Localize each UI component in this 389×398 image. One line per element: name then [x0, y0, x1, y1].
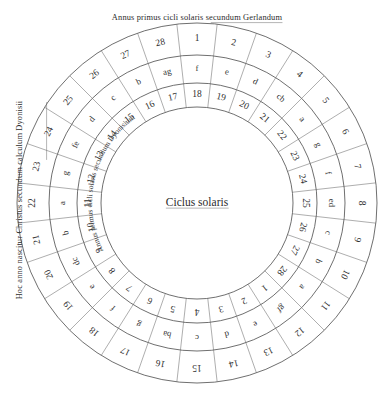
wheel-svg: 1234567891011121314151617181920212223242… [0, 0, 389, 398]
middle-ring-cell: b [313, 257, 324, 266]
inner-ring-cell: 7 [124, 283, 134, 294]
outer-ring-cell: 8 [357, 201, 367, 206]
inner-ring-cell: 27 [288, 244, 301, 257]
ring-divider [208, 298, 217, 381]
outer-ring-cell: 7 [352, 163, 363, 170]
inner-ring-cell: 20 [238, 98, 251, 111]
outer-ring-cell: 17 [119, 345, 132, 358]
middle-ring-cell: a [297, 283, 307, 292]
outer-ring-cell: 19 [61, 299, 75, 313]
caption-top-group: Annus primus cicli solaris secundum Gerl… [112, 13, 283, 23]
inner-ring-cell: 2 [240, 295, 249, 306]
inner-ring-cell: 25 [301, 198, 311, 208]
middle-ring-cell: g [60, 169, 71, 176]
outer-ring-cell: 14 [228, 358, 240, 370]
inner-ring-cell: 3 [218, 304, 225, 315]
middle-ring-cell: gf [275, 302, 287, 314]
middle-ring-cell: a [297, 114, 307, 123]
middle-ring-cell: ag [162, 65, 173, 77]
outer-ring-cell: 23 [30, 160, 42, 172]
outer-ring-cell: 25 [61, 93, 75, 107]
middle-ring-cell: d [251, 76, 260, 87]
middle-ring-cell: e [224, 66, 230, 77]
ring-divider [70, 271, 129, 330]
middle-ring-cell: f [196, 63, 199, 73]
caption-left: Hoc anno nascitur Christus secundum calc… [15, 100, 24, 299]
outer-ring-cell: 21 [30, 234, 42, 246]
ring-divider [177, 24, 186, 107]
inner-ring-cell: 16 [143, 98, 156, 111]
inner-ring-cell: 17 [167, 91, 179, 103]
outer-ring-cell: 16 [154, 358, 166, 370]
outer-ring-cell: 26 [87, 67, 101, 81]
middle-ring-cell: e [86, 282, 96, 291]
outer-ring-cell: 1 [195, 33, 200, 43]
inner-ring-cell: 26 [297, 221, 309, 233]
curved-label-path [92, 102, 170, 281]
inner-ring-cell: 5 [169, 304, 176, 315]
middle-ring-cell: dc [69, 256, 82, 268]
outer-ring-cell: 15 [192, 363, 202, 373]
inner-ring-cell: 24 [297, 173, 309, 185]
inner-ring-cell: 28 [275, 264, 289, 278]
middle-ring-cell: ed [327, 199, 337, 208]
middle-ring-cell: a [57, 201, 67, 205]
outer-ring-cell: 10 [339, 268, 352, 281]
ring-divider [265, 76, 324, 135]
middle-ring-cell: b [134, 76, 143, 87]
inner-ring-cell: 21 [258, 111, 272, 125]
ring-divider [292, 183, 375, 192]
inner-ring-cell: 22 [275, 128, 289, 142]
middle-ring-cell: c [195, 333, 199, 343]
outer-ring-cell: 6 [340, 127, 351, 136]
middle-ring-cell: fe [69, 139, 81, 150]
middle-ring-cell: cb [275, 91, 288, 104]
middle-ring-cell: g [313, 140, 324, 149]
inner-ring-cell: 1 [260, 283, 270, 294]
middle-ring-cell: f [323, 170, 333, 175]
outer-ring-cell: 11 [319, 299, 333, 313]
outer-ring-cell: 12 [293, 325, 307, 339]
outer-ring-cell: 28 [155, 36, 167, 48]
inner-ring-cell: 8 [106, 266, 117, 276]
outer-ring-cell: 5 [320, 95, 331, 105]
middle-ring-cell: d [223, 329, 230, 340]
inner-ring-cell: 18 [192, 89, 202, 99]
outer-ring-cell: 22 [27, 198, 37, 208]
outer-ring-cell: 27 [119, 48, 132, 61]
middle-ring-cell: f [109, 304, 118, 314]
inner-ring-cell: 23 [288, 149, 301, 162]
middle-ring-cell: b [60, 229, 71, 236]
middle-ring-cell: d [86, 114, 97, 124]
inner-ring-cell: 6 [145, 295, 154, 306]
outer-ring-cell: 13 [262, 345, 275, 358]
outer-ring-cell: 4 [295, 69, 305, 80]
curved-label-inner: Annus primus cicli solaris secundum Dyon… [85, 112, 136, 253]
outer-ring-cell: 9 [352, 236, 363, 243]
solar-cycle-diagram: 1234567891011121314151617181920212223242… [0, 0, 389, 398]
outer-ring-cell: 3 [264, 49, 273, 60]
outer-ring-cell: 20 [42, 268, 55, 281]
inner-ring-cell: 19 [215, 91, 227, 103]
outer-ring-cell: 2 [230, 37, 237, 48]
center-label: Ciclus solaris [166, 196, 229, 208]
middle-ring-cell: c [323, 230, 334, 236]
middle-ring-cell: c [108, 92, 117, 102]
middle-ring-cell: ba [162, 329, 172, 341]
ring-divider [177, 298, 186, 381]
middle-ring-cell: g [134, 319, 143, 330]
caption-top: Annus primus cicli solaris secundum Gerl… [112, 13, 283, 22]
inner-ring-cell: 4 [194, 307, 199, 317]
outer-ring-cell: 24 [42, 125, 55, 138]
middle-ring-cell: e [252, 319, 260, 330]
outer-ring-cell: 18 [87, 325, 101, 339]
ring-divider [265, 271, 324, 330]
